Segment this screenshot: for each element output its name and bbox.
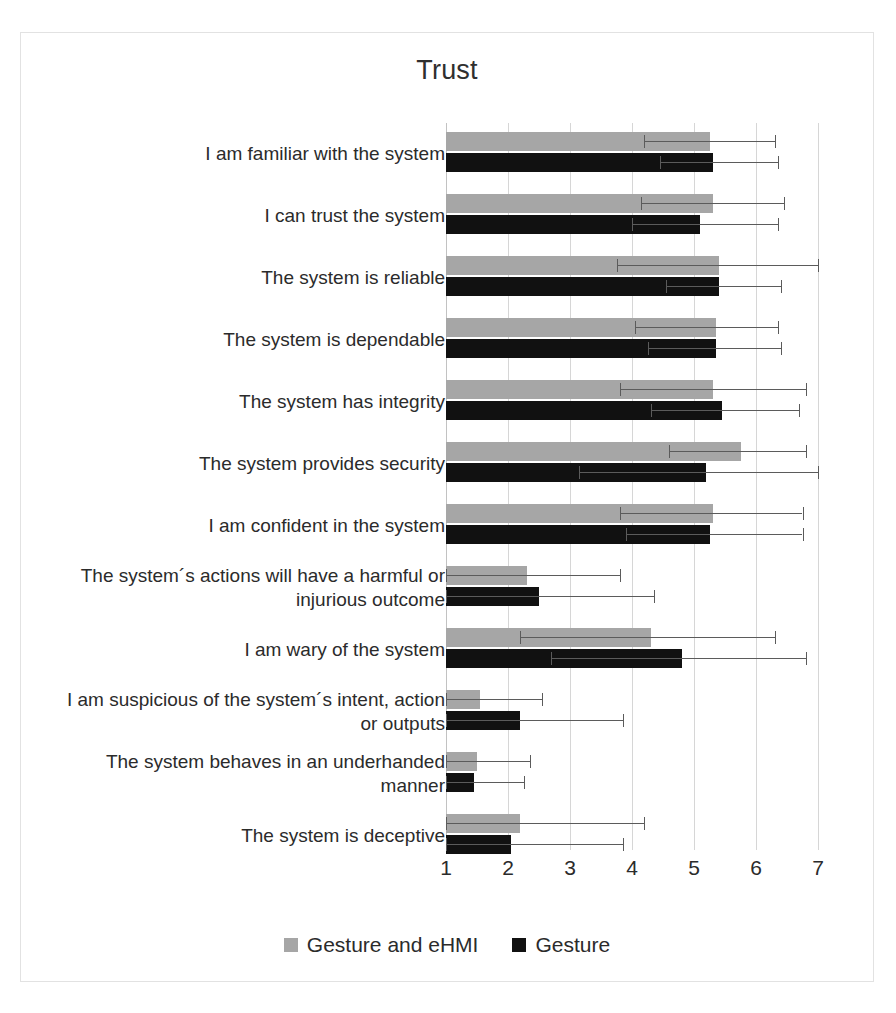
error-bar [446, 699, 542, 700]
error-bar-cap [778, 218, 779, 231]
error-bar-cap [669, 445, 670, 458]
legend-entry[interactable]: Gesture [512, 933, 610, 957]
error-bar-cap [660, 156, 661, 169]
error-bar [666, 286, 781, 287]
error-bar-cap [542, 693, 543, 706]
error-bar-cap [524, 776, 525, 789]
error-bar [669, 451, 805, 452]
error-bar-cap [644, 817, 645, 830]
row-bars [21, 619, 875, 681]
error-bar [632, 224, 778, 225]
error-bar-cap [446, 693, 447, 706]
x-tick-label: 6 [750, 856, 762, 880]
chart-row: I am suspicious of the system´s intent, … [21, 681, 875, 743]
error-bar-cap [806, 383, 807, 396]
error-bar [651, 410, 800, 411]
error-bar-cap [806, 445, 807, 458]
row-bars [21, 309, 875, 371]
error-bar [446, 720, 623, 721]
error-bar-cap [784, 197, 785, 210]
error-bar [446, 575, 620, 576]
error-bar-cap [446, 776, 447, 789]
chart-row: The system´s actions will have a harmful… [21, 557, 875, 619]
chart-row: I am familiar with the system [21, 123, 875, 185]
error-bar-cap [648, 342, 649, 355]
error-bar-cap [626, 528, 627, 541]
x-tick-label: 1 [440, 856, 452, 880]
plot-area: I am familiar with the systemI can trust… [21, 123, 875, 868]
row-bars [21, 247, 875, 309]
chart-container: Trust I am familiar with the systemI can… [20, 32, 874, 982]
error-bar [648, 348, 781, 349]
error-bar-cap [803, 507, 804, 520]
error-bar-cap [666, 280, 667, 293]
error-bar-cap [520, 631, 521, 644]
error-bar-cap [781, 342, 782, 355]
bar-rows: I am familiar with the systemI can trust… [21, 123, 875, 850]
row-bars [21, 557, 875, 619]
error-bar-cap [620, 383, 621, 396]
error-bar [660, 162, 778, 163]
error-bar [641, 203, 784, 204]
error-bar [635, 327, 778, 328]
error-bar-cap [778, 321, 779, 334]
row-bars [21, 185, 875, 247]
error-bar-cap [635, 321, 636, 334]
legend-label: Gesture and eHMI [307, 933, 479, 957]
error-bar [620, 389, 806, 390]
error-bar [644, 141, 774, 142]
error-bar-cap [654, 590, 655, 603]
error-bar [626, 534, 803, 535]
row-bars [21, 433, 875, 495]
legend-swatch-icon [512, 938, 526, 952]
error-bar [446, 782, 524, 783]
row-bars [21, 123, 875, 185]
error-bar [579, 472, 818, 473]
error-bar-cap [775, 631, 776, 644]
error-bar-cap [446, 838, 447, 851]
error-bar-cap [620, 569, 621, 582]
row-bars [21, 681, 875, 743]
error-bar-cap [781, 280, 782, 293]
error-bar [446, 823, 644, 824]
chart-row: The system has integrity [21, 371, 875, 433]
error-bar [446, 761, 530, 762]
row-bars [21, 743, 875, 805]
error-bar [446, 596, 654, 597]
error-bar-cap [446, 817, 447, 830]
error-bar [617, 265, 819, 266]
x-tick-label: 4 [626, 856, 638, 880]
legend-label: Gesture [535, 933, 610, 957]
chart-row: The system is dependable [21, 309, 875, 371]
error-bar-cap [620, 507, 621, 520]
error-bar-cap [775, 135, 776, 148]
chart-row: I am confident in the system [21, 495, 875, 557]
error-bar-cap [446, 590, 447, 603]
error-bar-cap [651, 404, 652, 417]
x-tick-label: 5 [688, 856, 700, 880]
chart-legend: Gesture and eHMIGesture [21, 933, 873, 957]
error-bar [520, 637, 774, 638]
error-bar [551, 658, 805, 659]
legend-entry[interactable]: Gesture and eHMI [284, 933, 479, 957]
error-bar-cap [778, 156, 779, 169]
chart-title: Trust [21, 55, 873, 86]
error-bar-cap [617, 259, 618, 272]
error-bar-cap [530, 755, 531, 768]
error-bar-cap [632, 218, 633, 231]
chart-row: I can trust the system [21, 185, 875, 247]
row-bars [21, 371, 875, 433]
error-bar-cap [623, 714, 624, 727]
error-bar-cap [806, 652, 807, 665]
chart-row: The system behaves in an underhanded man… [21, 743, 875, 805]
error-bar-cap [623, 838, 624, 851]
error-bar-cap [641, 197, 642, 210]
error-bar-cap [644, 135, 645, 148]
error-bar-cap [579, 466, 580, 479]
error-bar-cap [803, 528, 804, 541]
x-tick-label: 2 [502, 856, 514, 880]
error-bar-cap [446, 714, 447, 727]
error-bar-cap [446, 569, 447, 582]
error-bar-cap [446, 755, 447, 768]
error-bar [620, 513, 803, 514]
